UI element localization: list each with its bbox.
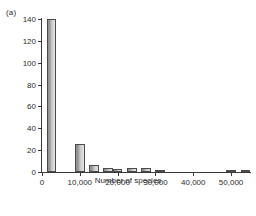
bar [127, 168, 136, 172]
x-axis-line [41, 172, 251, 173]
bar [226, 170, 235, 172]
y-tick-label: 100 [23, 58, 36, 67]
plot-area: Number of countries 020406080100120140 0… [42, 19, 250, 172]
y-tick-label: 80 [27, 80, 36, 89]
y-tick-mark [38, 85, 42, 86]
figure-panel-a: (a) Number of countries 0204060801001201… [0, 0, 256, 216]
y-tick-mark [38, 106, 42, 107]
y-tick-label: 40 [27, 124, 36, 133]
bar [103, 168, 112, 172]
bar [241, 170, 250, 172]
bar [113, 169, 122, 172]
y-tick-mark [38, 41, 42, 42]
y-tick-mark [38, 19, 42, 20]
y-tick-mark [38, 128, 42, 129]
bar [47, 19, 56, 172]
y-tick-label: 20 [27, 146, 36, 155]
y-tick-label: 140 [23, 15, 36, 24]
y-tick-label: 120 [23, 36, 36, 45]
bar [155, 170, 164, 172]
x-axis-title: Number of species [0, 176, 256, 185]
y-tick-label: 60 [27, 102, 36, 111]
panel-label: (a) [6, 8, 16, 17]
y-tick-mark [38, 63, 42, 64]
y-tick-mark [38, 150, 42, 151]
bar [89, 165, 98, 172]
bar [141, 168, 150, 172]
bar [75, 144, 84, 172]
